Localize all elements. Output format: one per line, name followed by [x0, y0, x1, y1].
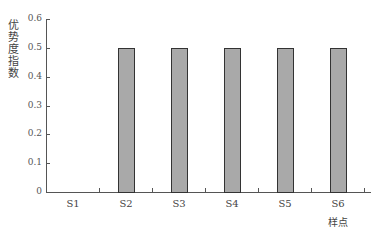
chart: 优势度指数 样点 00.10.20.30.40.50.6S1S2S3S4S5S6 — [0, 0, 378, 233]
x-tick — [311, 188, 312, 192]
y-tick-label: 0.6 — [26, 13, 42, 23]
y-axis-title: 优势度指数 — [8, 20, 22, 80]
y-tick — [46, 163, 50, 164]
y-tick — [46, 77, 50, 78]
x-tick-label: S6 — [323, 198, 353, 209]
bar-S2 — [118, 48, 135, 193]
x-tick — [99, 188, 100, 192]
x-tick — [205, 188, 206, 192]
bar-S4 — [224, 48, 241, 193]
y-tick-label: 0.5 — [26, 42, 42, 52]
y-tick — [46, 19, 50, 20]
x-tick-label: S1 — [58, 198, 88, 209]
bar-S3 — [171, 48, 188, 193]
y-tick — [46, 134, 50, 135]
x-tick-label: S5 — [270, 198, 300, 209]
y-tick — [46, 192, 50, 193]
y-tick-label: 0 — [26, 186, 42, 196]
x-axis — [46, 192, 371, 193]
y-tick — [46, 106, 50, 107]
x-axis-title: 样点 — [328, 214, 348, 229]
x-tick-label: S3 — [164, 198, 194, 209]
x-tick-label: S2 — [111, 198, 141, 209]
bar-S6 — [330, 48, 347, 193]
y-tick-label: 0.2 — [26, 128, 42, 138]
y-tick-label: 0.4 — [26, 71, 42, 81]
x-tick — [258, 188, 259, 192]
y-tick — [46, 48, 50, 49]
bar-S5 — [277, 48, 294, 193]
x-tick-label: S4 — [217, 198, 247, 209]
y-tick-label: 0.1 — [26, 157, 42, 167]
x-tick — [152, 188, 153, 192]
y-tick-label: 0.3 — [26, 100, 42, 110]
x-tick — [364, 188, 365, 192]
